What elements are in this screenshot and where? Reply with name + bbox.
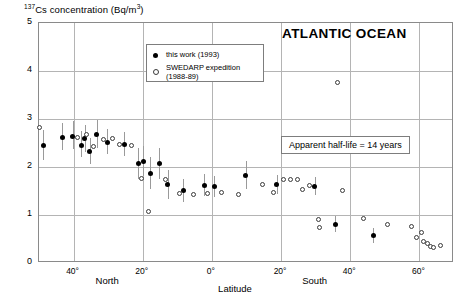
y-tick-label: 2 <box>8 160 32 170</box>
chart-figure: 137Cs concentration (Bq/m3) 01234540°20°… <box>0 0 460 296</box>
y-axis-title-superscript: 137 <box>24 3 35 10</box>
gridline-vertical <box>143 23 144 261</box>
y-tick-label: 4 <box>8 64 32 74</box>
gridline-horizontal <box>39 215 452 216</box>
y-tick-label: 1 <box>8 208 32 218</box>
y-tick-label: 3 <box>8 112 32 122</box>
y-axis-title-close: ) <box>140 4 143 15</box>
x-tick-label: 60° <box>398 266 438 276</box>
gridline-vertical <box>74 23 75 261</box>
y-axis-title: 137Cs concentration (Bq/m3) <box>24 3 144 15</box>
legend-marker-swedarp <box>153 69 159 75</box>
legend-label-this-work: this work (1993) <box>166 51 219 60</box>
chart-title: ATLANTIC OCEAN <box>282 26 407 41</box>
x-tick-label: 0° <box>191 266 231 276</box>
y-tick-label: 5 <box>8 16 32 26</box>
y-axis-title-main: Cs concentration (Bq/m <box>35 4 136 15</box>
legend: this work (1993) SWEDARP expedition (198… <box>146 44 264 82</box>
gridline-horizontal <box>39 119 452 120</box>
x-axis-hemisphere-label: North <box>77 275 137 286</box>
legend-marker-this-work <box>153 53 158 58</box>
y-tick-label: 0 <box>8 256 32 266</box>
gridline-vertical <box>419 23 420 261</box>
annotation-half-life: Apparent half-life = 14 years <box>281 136 410 154</box>
legend-label-swedarp: SWEDARP expedition (1988-89) <box>166 64 240 81</box>
gridline-horizontal <box>39 167 452 168</box>
x-axis-hemisphere-label: South <box>285 275 345 286</box>
x-axis-title: Latitude <box>195 283 275 294</box>
legend-label-swedarp-line2: (1988-89) <box>166 72 199 81</box>
